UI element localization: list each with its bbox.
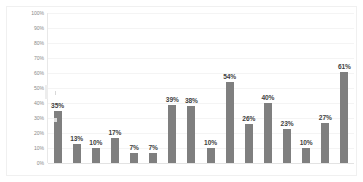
scan-artifact (54, 118, 57, 122)
bar-group: 26% (239, 13, 258, 163)
bar-group: 61% (335, 13, 354, 163)
bar-group: 39% (163, 13, 182, 163)
bar-value-label: 35% (51, 102, 64, 109)
bar-group: 10% (297, 13, 316, 163)
y-axis-tick-label: 40% (10, 100, 44, 106)
bar (207, 148, 215, 163)
bar (149, 153, 157, 164)
bar-group: 23% (278, 13, 297, 163)
bar-value-label: 26% (242, 115, 255, 122)
y-axis-tick-label: 30% (10, 115, 44, 121)
plot-area: 35%13%10%17%7%7%39%38%10%54%26%40%23%10%… (48, 13, 354, 163)
y-axis-tick-label: 100% (10, 10, 44, 16)
bar-group: 38% (182, 13, 201, 163)
bar-value-label: 23% (281, 120, 294, 127)
bar-group: 13% (67, 13, 86, 163)
bar-value-label: 27% (319, 114, 332, 121)
y-axis-tick-labels: 0%10%20%30%40%50%60%70%80%90%100% (10, 11, 44, 163)
bar-value-label: 54% (223, 73, 236, 80)
bar-value-label: 7% (129, 144, 138, 151)
bar-group: 7% (144, 13, 163, 163)
bar (264, 103, 272, 163)
bar-value-label: 61% (338, 63, 351, 70)
bar (283, 129, 291, 164)
bar (92, 148, 100, 163)
bar-value-label: 40% (261, 94, 274, 101)
bar-group: 10% (86, 13, 105, 163)
y-axis-tick-label: 0% (10, 160, 44, 166)
y-axis-tick-label: 90% (10, 25, 44, 31)
bar-value-label: 10% (300, 139, 313, 146)
bar (187, 106, 195, 163)
bar (73, 144, 81, 164)
bar-value-label: 10% (89, 139, 102, 146)
bar (168, 105, 176, 164)
bar (245, 124, 253, 163)
bar-group: 10% (201, 13, 220, 163)
bar (340, 72, 348, 164)
scan-artifact (55, 91, 56, 95)
bar-group: 17% (105, 13, 124, 163)
bar-group: 54% (220, 13, 239, 163)
bar-series: 35%13%10%17%7%7%39%38%10%54%26%40%23%10%… (48, 13, 354, 163)
bar-group: 7% (125, 13, 144, 163)
y-axis-tick-label: 20% (10, 130, 44, 136)
bar-value-label: 13% (70, 135, 83, 142)
y-axis-tick-label: 10% (10, 145, 44, 151)
axis-baseline (48, 163, 354, 164)
y-axis-tick-label: 70% (10, 55, 44, 61)
y-axis-tick-label: 80% (10, 40, 44, 46)
bar-value-label: 39% (166, 96, 179, 103)
bar-group: 27% (316, 13, 335, 163)
bar-group: 35% (48, 13, 67, 163)
bar-chart-figure: 0%10%20%30%40%50%60%70%80%90%100% 35%13%… (0, 0, 363, 182)
bar-value-label: 7% (149, 144, 158, 151)
y-axis-tick-label: 60% (10, 70, 44, 76)
bar-value-label: 10% (204, 139, 217, 146)
bar (111, 138, 119, 164)
bar-group: 40% (258, 13, 277, 163)
y-axis-tick-label: 50% (10, 85, 44, 91)
bar (226, 82, 234, 163)
bar (321, 123, 329, 164)
bar-value-label: 17% (108, 129, 121, 136)
bar-value-label: 38% (185, 97, 198, 104)
bar (302, 148, 310, 163)
bar (130, 153, 138, 164)
